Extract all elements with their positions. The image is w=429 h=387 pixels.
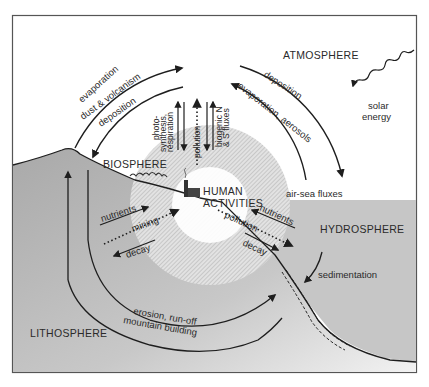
label-energy: energy bbox=[362, 111, 391, 122]
label-solar: solar bbox=[368, 100, 389, 111]
label-sedimentation: sedimentation bbox=[318, 269, 377, 280]
label-ns-fluxes: & S fluxes bbox=[221, 108, 231, 147]
label-respiration: respiration bbox=[165, 112, 175, 152]
label-air-sea-fluxes: air-sea fluxes bbox=[286, 188, 343, 199]
label-human-2: ACTIVITIES bbox=[203, 197, 263, 209]
biogeochemical-cycle-diagram: ATMOSPHERE BIOSPHERE HYDROSPHERE LITHOSP… bbox=[0, 0, 429, 387]
label-biosphere: BIOSPHERE bbox=[103, 158, 167, 170]
label-atmosphere: ATMOSPHERE bbox=[283, 49, 359, 61]
label-pollution-up: pollution bbox=[192, 126, 202, 158]
label-human-1: HUMAN bbox=[203, 185, 243, 197]
label-hydrosphere: HYDROSPHERE bbox=[320, 223, 404, 235]
label-lithosphere: LITHOSPHERE bbox=[30, 327, 107, 339]
